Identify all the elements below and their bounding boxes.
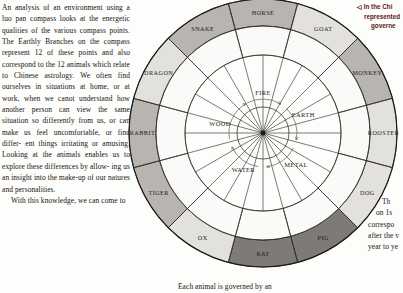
compass-hub [261,131,266,136]
bottom-center-line: Each animal is governed by an [178,281,338,292]
element-label-fire: FIRE [255,89,270,96]
page-canvas: An analysis of an environment using a lu… [0,0,403,293]
paragraph-second: With this knowledge, we can come to [2,195,130,206]
animal-label-ox: OX [198,234,208,241]
compass-svg: FIREEARTHMETALWATERWOOD HORSEGOATMONKEYR… [127,0,399,269]
animal-label-snake: SNAKE [191,25,214,32]
branch-segment-0[interactable] [235,26,290,58]
animal-label-horse: HORSE [252,9,275,16]
animal-label-monkey: MONKEY [352,69,382,76]
body-text-left-column: An analysis of an environment using a lu… [2,2,130,206]
branch-segment-9[interactable] [156,105,188,160]
luo-pan-compass-figure: FIREEARTHMETALWATERWOOD HORSEGOATMONKEYR… [127,0,399,269]
animal-label-dragon: DRAGON [144,69,173,76]
paragraph-main: An analysis of an environment using a lu… [2,2,130,195]
left-col-lines: An analysis of an environment using a lu… [2,3,130,194]
animal-label-rat: RAT [256,250,269,257]
element-label-wood: WOOD [209,120,230,127]
cycle-arrow-4 [229,104,246,139]
branch-segment-6[interactable] [235,208,290,240]
branch-segment-3[interactable] [338,105,370,160]
animal-label-rooster: ROOSTER [368,129,399,136]
element-label-water: WATER [232,166,256,173]
element-label-earth: EARTH [292,111,315,118]
animal-label-tiger: TIGER [148,189,169,196]
animal-label-goat: GOAT [314,25,332,32]
animal-label-pig: PIG [318,234,329,241]
element-label-metal: METAL [284,161,308,168]
animal-label-dog: DOG [360,189,375,196]
body-text-bottom-center: Each animal is governed by an [178,281,338,292]
cycle-arrow-0 [247,99,281,104]
animal-label-rabbit: RABBIT [130,129,155,136]
